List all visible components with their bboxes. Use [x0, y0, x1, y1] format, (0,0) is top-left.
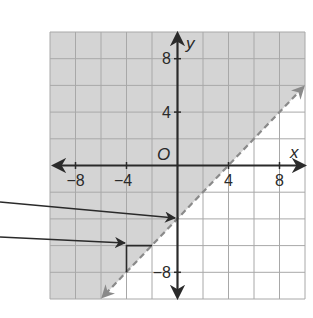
- coordinate-graph: y x O −8 −4 4 8 8 4 −8: [0, 0, 313, 318]
- y-axis-label: y: [185, 34, 196, 53]
- x-tick-label: 8: [275, 172, 284, 189]
- x-tick-label: −8: [66, 172, 84, 189]
- x-tick-label: 4: [224, 172, 233, 189]
- x-tick-label: −4: [114, 172, 132, 189]
- origin-label: O: [157, 145, 170, 164]
- y-tick-label: 8: [162, 50, 171, 67]
- x-axis-label: x: [289, 143, 299, 162]
- y-tick-label: 4: [162, 104, 171, 121]
- y-tick-label: −8: [153, 264, 171, 281]
